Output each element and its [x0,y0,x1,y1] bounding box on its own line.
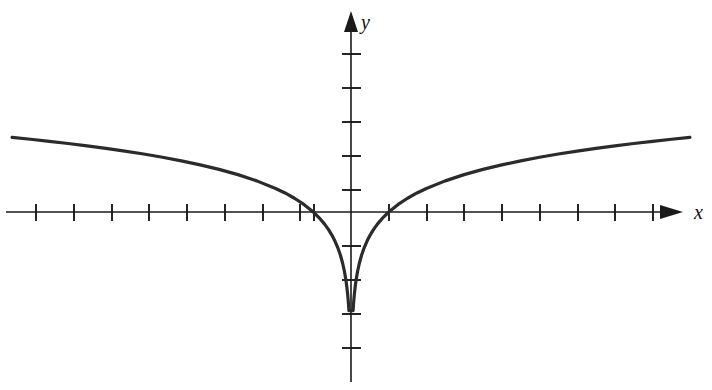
x-axis-arrow-icon [660,205,683,219]
graph-figure: x y [0,0,712,390]
y-axis-arrow-icon [344,11,358,32]
coordinate-plot [0,0,712,390]
